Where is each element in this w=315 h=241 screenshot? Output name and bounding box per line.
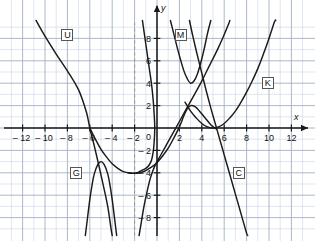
y-axis-label: y [161, 3, 166, 13]
axes [4, 5, 308, 236]
svg-text:– 2: – 2 [138, 146, 151, 156]
plot-canvas: – 12– 10– 8– 6– 4– 2246810128642– 2– 4– … [0, 0, 315, 241]
svg-text:– 2: – 2 [127, 133, 140, 143]
svg-text:– 8: – 8 [60, 133, 73, 143]
curve-k [185, 20, 276, 128]
svg-text:12: 12 [286, 133, 296, 143]
svg-text:2: 2 [177, 133, 182, 143]
svg-text:– 12: – 12 [13, 133, 31, 143]
svg-text:– 8: – 8 [138, 213, 151, 223]
coordinate-graph: – 12– 10– 8– 6– 4– 2246810128642– 2– 4– … [0, 0, 315, 241]
svg-text:4: 4 [146, 79, 151, 89]
curve-label-u: U [61, 29, 73, 41]
svg-text:4: 4 [199, 133, 204, 143]
curve-label-m: M [175, 29, 187, 41]
curve-label-c: C [233, 167, 245, 179]
x-axis-label: x [294, 112, 299, 122]
svg-text:– 10: – 10 [35, 133, 53, 143]
svg-text:– 4: – 4 [105, 133, 118, 143]
svg-text:2: 2 [146, 101, 151, 111]
svg-text:8: 8 [244, 133, 249, 143]
svg-text:8: 8 [146, 34, 151, 44]
curve-label-k: K [262, 77, 274, 89]
svg-text:10: 10 [264, 133, 274, 143]
curve-label-g: G [70, 167, 82, 179]
svg-text:6: 6 [222, 133, 227, 143]
svg-text:0: 0 [146, 132, 151, 142]
